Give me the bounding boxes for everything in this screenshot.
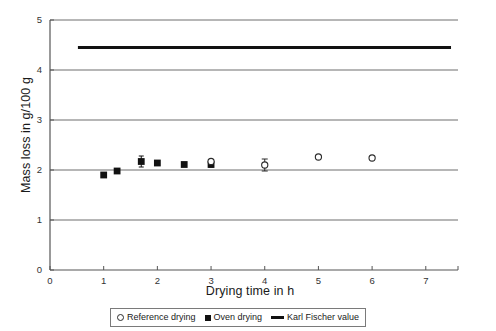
y-tick-label: 3 <box>20 114 42 125</box>
data-point-circle <box>262 162 268 168</box>
data-point-circle <box>315 154 321 160</box>
legend-circle-icon <box>117 314 124 321</box>
x-tick-label: 3 <box>200 275 222 286</box>
plot-frame <box>50 20 458 270</box>
x-tick-label: 5 <box>307 275 329 286</box>
legend-item-label: Reference drying <box>127 313 196 322</box>
y-tick-label: 5 <box>20 14 42 25</box>
x-tick-label: 2 <box>146 275 168 286</box>
legend-item: Reference drying <box>117 313 196 322</box>
data-point-square <box>100 172 107 179</box>
data-point-square <box>181 161 188 168</box>
legend-line-icon <box>271 316 284 319</box>
data-point-square <box>114 168 121 175</box>
y-tick-label: 4 <box>20 64 42 75</box>
data-point-circle <box>208 158 214 164</box>
y-tick-label: 0 <box>20 264 42 275</box>
data-point-square <box>138 158 145 165</box>
legend-item: Oven drying <box>205 313 263 322</box>
legend-item-label: Karl Fischer value <box>287 313 359 322</box>
series-oven-drying <box>100 156 214 178</box>
x-tick-label: 4 <box>254 275 276 286</box>
chart-container: Mass loss in g/100 g Drying time in h 01… <box>0 0 496 331</box>
x-tick-label: 1 <box>93 275 115 286</box>
legend-item: Karl Fischer value <box>271 313 359 322</box>
y-tick-label: 2 <box>20 164 42 175</box>
x-tick-label: 6 <box>361 275 383 286</box>
data-point-circle <box>369 155 375 161</box>
y-tick-label: 1 <box>20 214 42 225</box>
gridlines <box>50 20 458 220</box>
x-tick-label: 0 <box>39 275 61 286</box>
legend-square-icon <box>205 315 211 321</box>
data-point-square <box>154 160 161 167</box>
x-tick-label: 7 <box>415 275 437 286</box>
chart-legend: Reference dryingOven dryingKarl Fischer … <box>110 308 366 327</box>
legend-item-label: Oven drying <box>214 313 263 322</box>
series-reference-drying <box>208 154 375 171</box>
